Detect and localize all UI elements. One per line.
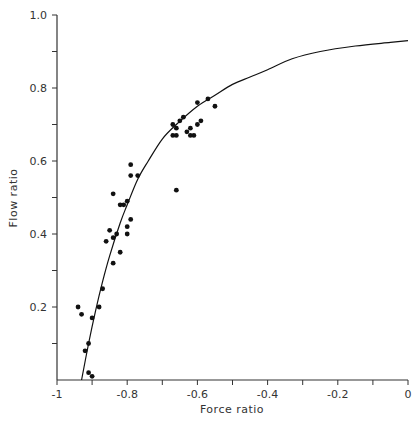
data-point: [125, 199, 130, 204]
data-point: [86, 341, 91, 346]
data-point: [184, 129, 189, 134]
y-tick-label: 0.2: [30, 301, 48, 314]
y-axis-label: Flow ratio: [7, 169, 20, 228]
data-point: [206, 97, 211, 102]
data-point: [97, 305, 102, 310]
data-point: [118, 202, 123, 207]
x-tick-label: -0.4: [257, 388, 278, 401]
scatter-chart: 0.20.40.60.81.0-1-0.8-0.6-0.4-0.20 Force…: [0, 0, 419, 427]
x-tick-label: -0.6: [187, 388, 208, 401]
x-axis-label: Force ratio: [200, 403, 264, 416]
data-point: [174, 188, 179, 193]
data-point: [191, 133, 196, 138]
fitted-curve-line: [82, 41, 408, 380]
data-point: [195, 122, 200, 127]
data-point: [114, 232, 119, 237]
data-point: [125, 224, 130, 229]
data-point: [195, 100, 200, 105]
data-point: [128, 162, 133, 167]
y-tick-label: 0.8: [30, 82, 48, 95]
data-point: [111, 261, 116, 266]
data-point: [118, 250, 123, 255]
data-point: [86, 370, 91, 375]
data-point: [125, 232, 130, 237]
x-tick-label: -1: [52, 388, 63, 401]
data-point: [128, 173, 133, 178]
data-point: [107, 228, 112, 233]
y-tick-label: 0.6: [30, 155, 48, 168]
data-point: [199, 118, 204, 123]
data-point: [104, 239, 109, 244]
data-point: [128, 217, 133, 222]
y-tick-label: 0.4: [30, 228, 48, 241]
x-tick-label: -0.8: [116, 388, 137, 401]
data-point: [111, 235, 116, 240]
data-point: [170, 122, 175, 127]
data-point: [76, 305, 81, 310]
data-point: [177, 118, 182, 123]
fitted-curve: [82, 41, 408, 380]
y-tick-label: 1.0: [30, 9, 48, 22]
data-point: [188, 126, 193, 131]
data-point: [111, 191, 116, 196]
data-point: [174, 133, 179, 138]
x-tick-label: -0.2: [327, 388, 348, 401]
data-point: [79, 312, 84, 317]
data-point: [100, 286, 105, 291]
data-point: [83, 348, 88, 353]
data-point: [181, 115, 186, 120]
data-points: [76, 97, 218, 379]
x-tick-label: 0: [405, 388, 412, 401]
data-point: [90, 316, 95, 321]
data-point: [90, 374, 95, 379]
data-point: [135, 173, 140, 178]
data-point: [213, 104, 218, 109]
data-point: [174, 126, 179, 131]
